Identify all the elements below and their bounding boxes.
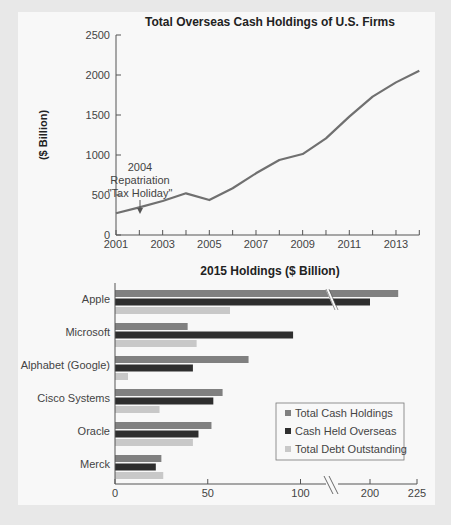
bar-x-tick-label: 200 bbox=[361, 487, 379, 499]
bar-x-tick-label: 0 bbox=[112, 487, 118, 499]
legend-swatch bbox=[285, 410, 291, 416]
x-tick-label: 2013 bbox=[384, 238, 408, 250]
bar-group-alphabet-google: Alphabet (Google) bbox=[21, 356, 249, 380]
chart-canvas: Total Overseas Cash Holdings of U.S. Fir… bbox=[0, 0, 451, 525]
bar-group-microsoft: Microsoft bbox=[65, 323, 293, 347]
bar-total-debt-outstanding bbox=[115, 472, 163, 479]
bar-x-tick-label: 225 bbox=[408, 487, 426, 499]
y-axis: 05001000150020002500 bbox=[86, 29, 121, 241]
bar-group-merck: Merck bbox=[80, 455, 163, 479]
annotation-line-1: 2004 bbox=[128, 161, 152, 173]
bar-group-oracle: Oracle bbox=[78, 422, 212, 446]
bar-x-tick-label: 50 bbox=[202, 487, 214, 499]
bar-total-debt-outstanding bbox=[115, 406, 160, 413]
x-tick-label: 2009 bbox=[290, 238, 314, 250]
legend-label: Total Debt Outstanding bbox=[295, 443, 407, 455]
x-axis: 2001200320052007200920112013 bbox=[104, 230, 420, 250]
legend-swatch bbox=[285, 428, 291, 434]
y-tick-label: 2000 bbox=[86, 69, 110, 81]
category-label: Oracle bbox=[78, 425, 110, 437]
bar-cash-held-overseas bbox=[115, 365, 193, 372]
y-tick-label: 1500 bbox=[86, 109, 110, 121]
bar-cash-held-overseas bbox=[115, 431, 198, 438]
x-tick-label: 2011 bbox=[337, 238, 361, 250]
bar-total-debt-outstanding bbox=[115, 373, 128, 380]
annotation-line-2: Repatriation bbox=[110, 174, 169, 186]
bar-total-cash-holdings bbox=[115, 323, 188, 330]
legend-label: Total Cash Holdings bbox=[295, 407, 393, 419]
bar-total-cash-holdings bbox=[115, 422, 211, 429]
bar-group-apple: Apple bbox=[82, 290, 398, 314]
bar-total-cash-holdings bbox=[115, 455, 161, 462]
y-tick-label: 2500 bbox=[86, 29, 110, 41]
bar-total-debt-outstanding bbox=[115, 439, 193, 446]
category-label: Microsoft bbox=[65, 326, 110, 338]
bar-total-debt-outstanding bbox=[115, 307, 230, 314]
legend-swatch bbox=[285, 446, 291, 452]
x-tick-label: 2001 bbox=[104, 238, 128, 250]
x-tick-label: 2005 bbox=[197, 238, 221, 250]
category-label: Cisco Systems bbox=[37, 392, 110, 404]
y-axis-label: ($ Billion) bbox=[37, 110, 49, 160]
legend: Total Cash HoldingsCash Held OverseasTot… bbox=[276, 403, 407, 460]
bar-chart: 2015 Holdings ($ Billion) AppleMicrosoft… bbox=[21, 264, 426, 499]
annotation-line-3: "Tax Holiday" bbox=[108, 187, 173, 199]
annotation-arrow-head bbox=[137, 208, 143, 214]
bar-total-cash-holdings bbox=[115, 356, 249, 363]
line-chart: Total Overseas Cash Holdings of U.S. Fir… bbox=[37, 15, 419, 250]
bar-total-cash-holdings bbox=[115, 389, 223, 396]
bar-x-tick-label: 100 bbox=[291, 487, 309, 499]
x-tick-label: 2007 bbox=[244, 238, 268, 250]
bar-group-cisco-systems: Cisco Systems bbox=[37, 389, 222, 413]
bar-total-debt-outstanding bbox=[115, 340, 197, 347]
category-label: Apple bbox=[82, 293, 110, 305]
x-tick-label: 2003 bbox=[150, 238, 174, 250]
category-label: Merck bbox=[80, 458, 110, 470]
bar-total-cash-holdings bbox=[115, 290, 398, 297]
line-chart-title: Total Overseas Cash Holdings of U.S. Fir… bbox=[145, 15, 395, 29]
bar-chart-title: 2015 Holdings ($ Billion) bbox=[200, 264, 339, 278]
category-label: Alphabet (Google) bbox=[21, 359, 110, 371]
legend-label: Cash Held Overseas bbox=[295, 425, 397, 437]
bar-cash-held-overseas bbox=[115, 464, 156, 471]
y-tick-label: 1000 bbox=[86, 149, 110, 161]
tax-holiday-annotation: 2004 Repatriation "Tax Holiday" bbox=[108, 161, 173, 214]
bar-cash-held-overseas bbox=[115, 398, 213, 405]
bar-cash-held-overseas bbox=[115, 332, 293, 339]
